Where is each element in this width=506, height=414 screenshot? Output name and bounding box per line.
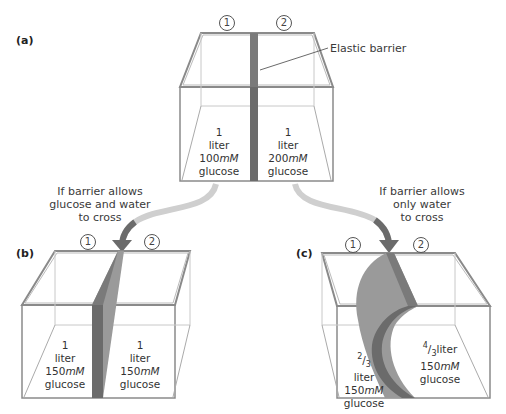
concentration-value: 150 bbox=[420, 360, 440, 372]
volume-unit: liter bbox=[113, 352, 167, 365]
concentration-unit: mM bbox=[440, 360, 459, 372]
solute-name: glucose bbox=[338, 397, 390, 410]
concentration-value: 200 bbox=[268, 152, 288, 164]
caption-line: to cross bbox=[45, 211, 155, 224]
concentration: 150mM bbox=[407, 360, 473, 373]
concentration: 200mM bbox=[262, 152, 314, 165]
volume-unit: liter bbox=[38, 352, 92, 365]
caption-line: glucose and water bbox=[45, 198, 155, 211]
solute-name: glucose bbox=[262, 165, 314, 178]
volume-unit: liter bbox=[262, 139, 314, 152]
panel-c-right-solution: 4/3liter 150mM glucose bbox=[407, 339, 473, 386]
panel-c-left-solution: 2/3 liter 150mM glucose bbox=[338, 350, 390, 410]
panel-c-label: (c) bbox=[296, 247, 313, 260]
concentration-value: 100 bbox=[199, 152, 219, 164]
volume-value: 1 bbox=[113, 339, 167, 352]
panel-b-label: (b) bbox=[16, 247, 34, 260]
solute-name: glucose bbox=[113, 378, 167, 391]
side-1-marker-a: 1 bbox=[219, 15, 235, 31]
volume-unit: liter bbox=[193, 139, 245, 152]
side-2-marker-a: 2 bbox=[276, 15, 292, 31]
concentration-unit: mM bbox=[140, 365, 159, 377]
fraction-denominator: 3 bbox=[366, 360, 371, 369]
side-1-marker-c: 1 bbox=[345, 237, 361, 253]
side-1-marker-b: 1 bbox=[80, 234, 96, 250]
fraction-numerator: 2 bbox=[357, 352, 362, 361]
volume-fraction: 2/3 bbox=[338, 350, 390, 371]
fraction-numerator: 4 bbox=[423, 341, 428, 350]
caption-glucose-and-water: If barrier allows glucose and water to c… bbox=[45, 185, 155, 224]
caption-line: If barrier allows bbox=[45, 185, 155, 198]
volume-value: 1 bbox=[38, 339, 92, 352]
volume-fraction: 4/3liter bbox=[407, 339, 473, 360]
panel-a-left-solution: 1 liter 100mM glucose bbox=[193, 126, 245, 178]
volume-value: 1 bbox=[193, 126, 245, 139]
solute-name: glucose bbox=[193, 165, 245, 178]
caption-only-water: If barrier allows only water to cross bbox=[367, 185, 477, 224]
concentration: 150mM bbox=[113, 365, 167, 378]
caption-line: If barrier allows bbox=[367, 185, 477, 198]
concentration-unit: mM bbox=[219, 152, 238, 164]
side-2-marker-c: 2 bbox=[413, 237, 429, 253]
side-2-marker-b: 2 bbox=[144, 234, 160, 250]
panel-a-right-solution: 1 liter 200mM glucose bbox=[262, 126, 314, 178]
concentration: 100mM bbox=[193, 152, 245, 165]
volume-unit: liter bbox=[338, 371, 390, 384]
concentration-unit: mM bbox=[288, 152, 307, 164]
concentration-unit: mM bbox=[364, 384, 383, 396]
concentration: 150mM bbox=[338, 384, 390, 397]
concentration-value: 150 bbox=[120, 365, 140, 377]
elastic-barrier bbox=[250, 33, 258, 181]
solute-name: glucose bbox=[38, 378, 92, 391]
callout-line bbox=[260, 48, 328, 70]
panel-a-label: (a) bbox=[16, 34, 33, 47]
concentration-value: 150 bbox=[45, 365, 65, 377]
panel-b-left-solution: 1 liter 150mM glucose bbox=[38, 339, 92, 391]
caption-line: to cross bbox=[367, 211, 477, 224]
concentration-unit: mM bbox=[65, 365, 84, 377]
volume-value: 1 bbox=[262, 126, 314, 139]
volume-unit: liter bbox=[437, 343, 458, 355]
concentration-value: 150 bbox=[344, 384, 364, 396]
elastic-barrier-callout: Elastic barrier bbox=[330, 42, 406, 55]
panel-b-right-solution: 1 liter 150mM glucose bbox=[113, 339, 167, 391]
solute-name: glucose bbox=[407, 373, 473, 386]
concentration: 150mM bbox=[38, 365, 92, 378]
caption-line: only water bbox=[367, 198, 477, 211]
